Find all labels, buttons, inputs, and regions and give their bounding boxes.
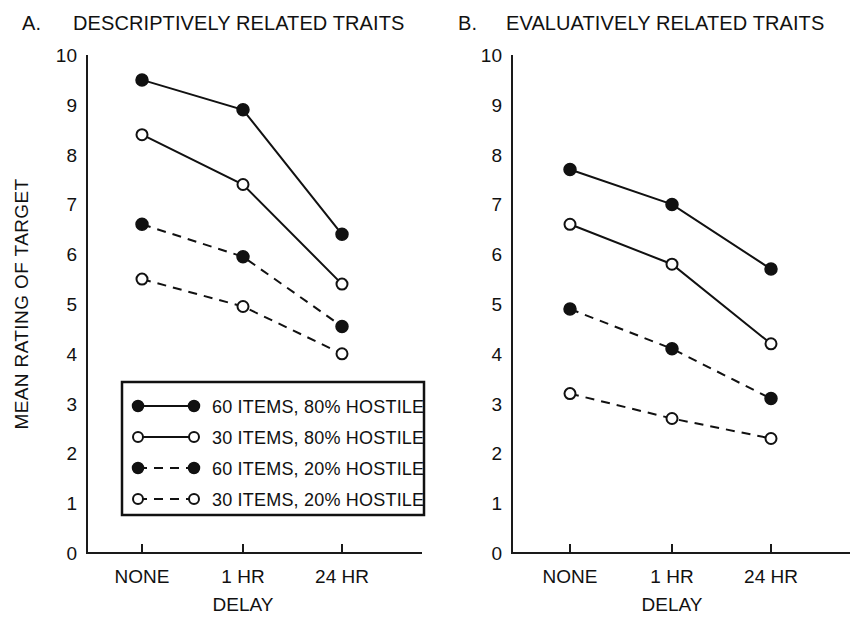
data-point-marker [137, 274, 148, 285]
axis-lines [512, 55, 850, 553]
data-point-marker [765, 393, 777, 405]
data-point-marker [337, 348, 348, 359]
chart-panel-b: B. EVALUATIVELY RELATED TRAITS 109876543… [430, 0, 857, 638]
legend-filled-circle-icon [133, 401, 144, 412]
data-point-marker [237, 104, 249, 116]
data-point-marker [766, 433, 777, 444]
data-point-marker [337, 279, 348, 290]
data-point-marker [336, 320, 348, 332]
data-point-marker [565, 219, 576, 230]
x-tick-label: NONE [543, 566, 598, 587]
chart-panel-a: A. DESCRIPTIVELY RELATED TRAITS 10987654… [0, 0, 430, 638]
y-tick-label: 9 [491, 95, 502, 116]
y-tick-label: 1 [66, 493, 77, 514]
x-axis-title: DELAY [642, 594, 703, 615]
y-tick-label: 4 [491, 344, 502, 365]
y-tick-label: 5 [491, 294, 502, 315]
series-line-1 [142, 80, 342, 234]
series-line-1 [570, 170, 771, 270]
data-point-marker [765, 263, 777, 275]
data-point-marker [237, 251, 249, 263]
legend-filled-circle-icon [189, 463, 200, 474]
x-tick-label: 1 HR [650, 566, 693, 587]
y-tick-label: 2 [491, 443, 502, 464]
data-point-marker [336, 228, 348, 240]
y-tick-label: 2 [66, 443, 77, 464]
y-tick-label: 10 [481, 45, 502, 66]
data-point-marker [666, 343, 678, 355]
y-tick-label: 6 [66, 244, 77, 265]
legend-open-circle-icon [189, 432, 199, 442]
data-point-marker [666, 198, 678, 210]
panel-a-plot: 109876543210NONE1 HR24 HRDELAYMEAN RATIN… [0, 0, 430, 638]
x-tick-label: 24 HR [744, 566, 798, 587]
figure-canvas: A. DESCRIPTIVELY RELATED TRAITS 10987654… [0, 0, 857, 638]
y-tick-label: 3 [491, 394, 502, 415]
data-point-marker [137, 129, 148, 140]
y-tick-label: 7 [491, 194, 502, 215]
legend-open-circle-icon [189, 494, 199, 504]
data-point-marker [136, 74, 148, 86]
data-point-marker [766, 338, 777, 349]
legend-entry-label: 60 ITEMS, 20% HOSTILE [212, 459, 424, 479]
legend-entry-label: 60 ITEMS, 80% HOSTILE [212, 397, 424, 417]
legend-entry-label: 30 ITEMS, 20% HOSTILE [212, 490, 424, 510]
y-tick-label: 6 [491, 244, 502, 265]
legend-open-circle-icon [133, 494, 143, 504]
legend-filled-circle-icon [133, 463, 144, 474]
y-tick-label: 4 [66, 344, 77, 365]
y-tick-label: 10 [56, 45, 77, 66]
legend-open-circle-icon [133, 432, 143, 442]
x-tick-label: 1 HR [221, 566, 264, 587]
y-tick-label: 7 [66, 194, 77, 215]
y-tick-label: 0 [491, 543, 502, 564]
y-tick-label: 8 [66, 145, 77, 166]
data-point-marker [667, 413, 678, 424]
data-point-marker [565, 388, 576, 399]
data-point-marker [238, 301, 249, 312]
y-tick-label: 3 [66, 394, 77, 415]
data-point-marker [564, 164, 576, 176]
panel-b-plot: 109876543210NONE1 HR24 HRDELAY [430, 0, 857, 638]
data-point-marker [238, 179, 249, 190]
x-axis-title: DELAY [213, 594, 274, 615]
y-tick-label: 5 [66, 294, 77, 315]
legend-filled-circle-icon [189, 401, 200, 412]
series-line-2 [570, 224, 771, 343]
data-point-marker [136, 218, 148, 230]
y-tick-label: 8 [491, 145, 502, 166]
y-tick-label: 9 [66, 95, 77, 116]
y-axis-title: MEAN RATING OF TARGET [11, 178, 32, 429]
y-tick-label: 0 [66, 543, 77, 564]
x-tick-label: NONE [115, 566, 170, 587]
y-tick-label: 1 [491, 493, 502, 514]
legend-entry-label: 30 ITEMS, 80% HOSTILE [212, 428, 424, 448]
data-point-marker [667, 259, 678, 270]
series-line-4 [142, 279, 342, 354]
data-point-marker [564, 303, 576, 315]
x-tick-label: 24 HR [315, 566, 369, 587]
